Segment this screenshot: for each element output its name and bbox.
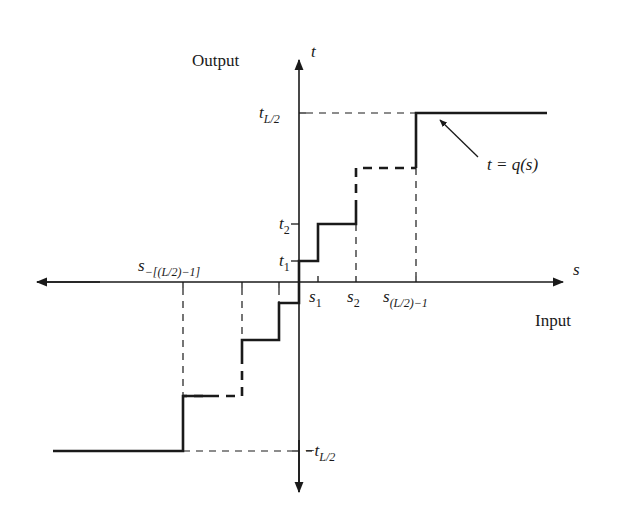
label-s2: s2 <box>347 287 360 310</box>
output-axis-title: Output <box>192 51 240 70</box>
label-t2: t2 <box>279 214 290 237</box>
quantizer-diagram: Output t s Input tL/2 t2 t1 −tL/2 s1 s2 … <box>0 0 619 523</box>
t-axis-name: t <box>311 42 317 61</box>
label-t-top: tL/2 <box>259 103 280 126</box>
label-t1: t1 <box>279 251 290 274</box>
label-s-neg: s−[(L/2)−1] <box>138 256 200 279</box>
s-axis-name: s <box>573 260 580 279</box>
function-pointer-arrow <box>440 120 478 157</box>
label-s-last: s(L/2)−1 <box>383 287 428 310</box>
function-label: t = q(s) <box>487 155 538 174</box>
input-axis-title: Input <box>535 311 571 330</box>
label-t-bottom: −tL/2 <box>305 441 335 464</box>
label-s1: s1 <box>309 287 322 310</box>
